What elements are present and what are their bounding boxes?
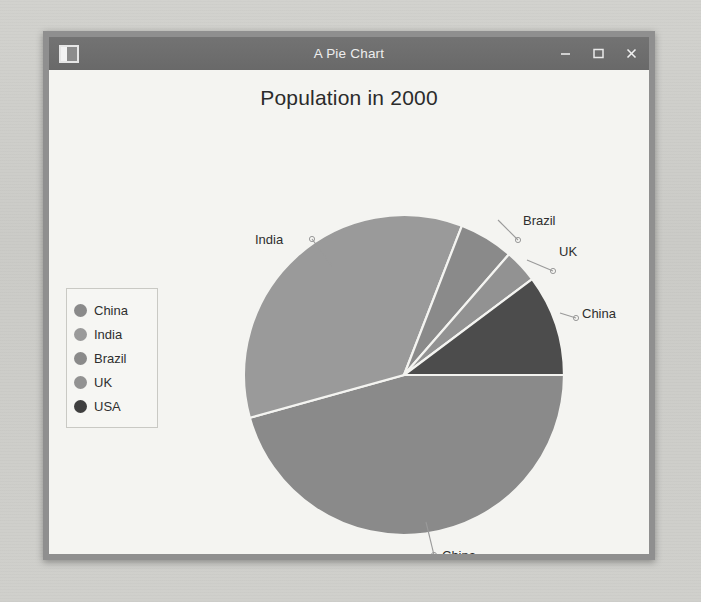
window-icon (59, 45, 79, 63)
legend-swatch-uk (74, 376, 87, 389)
legend-item-brazil[interactable]: Brazil (74, 346, 149, 370)
minimize-icon[interactable] (558, 46, 573, 61)
legend-label-uk: UK (94, 375, 112, 390)
legend-label-usa: USA (94, 399, 121, 414)
uk-leader-line (527, 260, 553, 271)
usa-label: China (582, 306, 617, 321)
legend-item-usa[interactable]: USA (74, 394, 149, 418)
brazil-leader-line (498, 220, 518, 240)
legend-item-india[interactable]: India (74, 322, 149, 346)
maximize-icon[interactable] (591, 46, 606, 61)
china-label: China (442, 548, 477, 554)
legend-item-china[interactable]: China (74, 298, 149, 322)
legend-swatch-china (74, 304, 87, 317)
brazil-label: Brazil (523, 213, 556, 228)
legend-label-brazil: Brazil (94, 351, 127, 366)
india-label: India (255, 232, 284, 247)
close-icon[interactable] (624, 46, 639, 61)
legend-swatch-brazil (74, 352, 87, 365)
legend-label-china: China (94, 303, 128, 318)
usa-leader-line (560, 313, 576, 318)
legend-swatch-india (74, 328, 87, 341)
callout-usa: China (560, 306, 617, 321)
uk-label: UK (559, 244, 577, 259)
callout-brazil: Brazil (498, 213, 556, 243)
application-window: A Pie Chart Population in 2000 (43, 31, 655, 560)
legend-swatch-usa (74, 400, 87, 413)
legend-label-india: India (94, 327, 122, 342)
legend-item-uk[interactable]: UK (74, 370, 149, 394)
chart-canvas: Population in 2000 India Brazil UK (49, 70, 649, 554)
legend: China India Brazil UK USA (66, 288, 158, 428)
pie-slice-group (244, 215, 564, 535)
window-controls (558, 46, 639, 61)
callout-uk: UK (527, 244, 577, 274)
title-bar[interactable]: A Pie Chart (49, 37, 649, 70)
